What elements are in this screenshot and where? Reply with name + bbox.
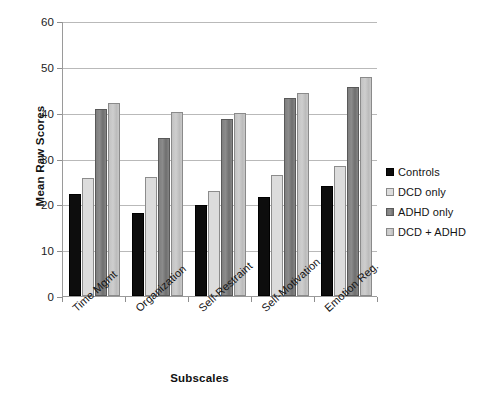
- bar: [145, 177, 157, 296]
- bar: [284, 98, 296, 296]
- legend-item: ADHD only: [386, 203, 478, 221]
- bar: [82, 178, 94, 296]
- bar: [321, 186, 333, 296]
- legend-item: Controls: [386, 163, 478, 181]
- bar-group: [321, 22, 372, 296]
- y-tick-label: 60: [14, 16, 54, 28]
- bar-group: [195, 22, 246, 296]
- y-tick-label: 50: [14, 62, 54, 74]
- legend-label: DCD only: [398, 186, 446, 198]
- x-tick-mark: [377, 297, 378, 302]
- x-tick-mark: [251, 297, 252, 302]
- y-tick-label: 40: [14, 108, 54, 120]
- x-tick-mark: [314, 297, 315, 302]
- legend-swatch-icon: [386, 208, 394, 216]
- bar: [95, 109, 107, 296]
- chart-figure: Mean Raw Scores 0102030405060 Time MgmtO…: [0, 0, 479, 400]
- legend-swatch-icon: [386, 228, 394, 236]
- bar-group: [132, 22, 183, 296]
- x-tick-mark: [125, 297, 126, 302]
- legend-label: DCD + ADHD: [398, 226, 466, 238]
- bar: [132, 213, 144, 296]
- y-tick-mark: [57, 251, 62, 252]
- plot-area: [62, 22, 377, 297]
- x-tick-mark: [188, 297, 189, 302]
- bar: [347, 87, 359, 296]
- x-tick-mark: [62, 297, 63, 302]
- legend-swatch-icon: [386, 168, 394, 176]
- bar: [221, 119, 233, 296]
- y-tick-label: 0: [14, 291, 54, 303]
- y-tick-label: 30: [14, 154, 54, 166]
- legend: ControlsDCD onlyADHD onlyDCD + ADHD: [386, 163, 478, 243]
- y-tick-label: 10: [14, 245, 54, 257]
- y-tick-mark: [57, 205, 62, 206]
- y-tick-mark: [57, 114, 62, 115]
- y-tick-mark: [57, 68, 62, 69]
- bar-group: [258, 22, 309, 296]
- bar: [271, 175, 283, 296]
- bar: [334, 166, 346, 296]
- bar: [108, 103, 120, 296]
- bar-group: [69, 22, 120, 296]
- legend-swatch-icon: [386, 188, 394, 196]
- legend-label: ADHD only: [398, 206, 453, 218]
- bar: [208, 191, 220, 296]
- bar-series-container: [63, 22, 377, 296]
- y-tick-mark: [57, 160, 62, 161]
- y-tick-label: 20: [14, 199, 54, 211]
- y-tick-mark: [57, 22, 62, 23]
- bar: [69, 194, 81, 296]
- x-axis-title: Subscales: [0, 372, 479, 384]
- bar: [195, 205, 207, 296]
- legend-item: DCD + ADHD: [386, 223, 478, 241]
- bar: [258, 197, 270, 296]
- legend-item: DCD only: [386, 183, 478, 201]
- legend-label: Controls: [398, 166, 440, 178]
